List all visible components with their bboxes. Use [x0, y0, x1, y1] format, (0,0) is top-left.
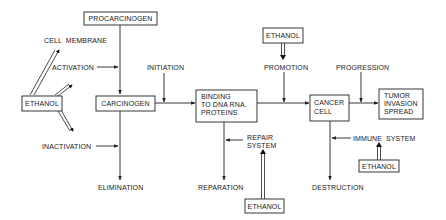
ethanol-top-label: ETHANOL [266, 32, 300, 39]
carcinogen-box: CARCINOGEN [96, 96, 155, 111]
ethanol-to-cell-membrane-double-arrow [30, 50, 59, 95]
immune-system-label: IMMUNE SYSTEM [353, 135, 416, 142]
tumor-label-line3: SPREAD [384, 108, 413, 115]
repair-system-label-line1: REPAIR [247, 134, 273, 141]
procarcinogen-box: PROCARCINOGEN [84, 12, 157, 25]
binding-label-line2: TO DNA RNA. [201, 101, 247, 108]
binding-label-line1: BINDING [201, 93, 231, 100]
procarcinogen-label: PROCARCINOGEN [89, 15, 153, 22]
cancer-cell-box: CANCER CELL [310, 95, 349, 121]
elimination-label: ELIMINATION [98, 184, 143, 191]
reparation-label: REPARATION [198, 184, 243, 191]
ethanol-immune-box: ETHANOL [359, 160, 399, 172]
ethanol-repair-label: ETHANOL [248, 203, 282, 210]
ethanol-to-immune-system-double-arrow [376, 142, 382, 160]
binding-box: BINDING TO DNA RNA. PROTEINS [196, 90, 257, 122]
destruction-label: DESTRUCTION [312, 184, 364, 191]
ethanol-top-box: ETHANOL [263, 28, 303, 43]
tumor-label-line2: INVASION [384, 100, 418, 107]
promotion-label: PROMOTION [264, 64, 308, 71]
carcinogen-label: CARCINOGEN [101, 100, 149, 107]
cancer-cell-label-line1: CANCER [314, 99, 344, 106]
ethanol-to-inactivation-double-arrow [58, 110, 73, 131]
initiation-label: INITIATION [147, 64, 184, 71]
cell-membrane-label: CELL MEMBRANE [44, 37, 107, 44]
ethanol-left-box: ETHANOL [22, 96, 62, 111]
ethanol-to-promotion-double-arrow [280, 43, 286, 60]
tumor-box: TUMOR INVASION SPREAD [379, 89, 423, 119]
ethanol-to-repair-system-double-arrow [260, 149, 266, 199]
cancer-cell-label-line2: CELL [314, 108, 332, 115]
ethanol-immune-label: ETHANOL [362, 163, 396, 170]
binding-label-line3: PROTEINS [201, 109, 238, 116]
repair-system-label-line2: SYSTEM [247, 142, 276, 149]
ethanol-left-label: ETHANOL [25, 100, 59, 107]
ethanol-repair-box: ETHANOL [245, 199, 284, 213]
carcinogenesis-diagram: PROCARCINOGEN CARCINOGEN ETHANOL BINDING… [0, 0, 446, 220]
progression-label: PROGRESSION [336, 64, 389, 71]
activation-label: ACTIVATION [52, 64, 94, 71]
inactivation-label: INACTIVATION [42, 143, 91, 150]
tumor-label-line1: TUMOR [384, 92, 410, 99]
ethanol-to-activation-double-arrow [55, 84, 72, 96]
